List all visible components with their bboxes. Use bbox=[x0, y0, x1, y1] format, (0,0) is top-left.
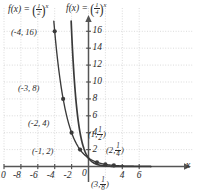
graph-figure: f(x) = (12)x f(x) = (14)x (-4, 16) (-3, … bbox=[0, 0, 197, 192]
point-label-neg4-16: (-4, 16) bbox=[11, 28, 37, 37]
point-label-2-quarter: (2,14) bbox=[106, 143, 124, 159]
y-tick-10: 10 bbox=[93, 77, 103, 87]
data-point bbox=[78, 148, 82, 152]
x-axis-label: x bbox=[186, 161, 190, 171]
paren-close: ) bbox=[100, 2, 104, 17]
curve-1 bbox=[54, 21, 151, 166]
y-tick-6: 6 bbox=[93, 111, 98, 121]
x-tick-neg8: -8 bbox=[13, 171, 21, 181]
curve-1-fx: f(x) bbox=[8, 4, 21, 14]
data-point bbox=[112, 163, 116, 167]
y-tick-8: 8 bbox=[93, 94, 98, 104]
y-tick-4: 4 bbox=[93, 128, 98, 138]
curve-2-equals: = bbox=[82, 3, 88, 13]
data-point bbox=[103, 162, 107, 166]
point-label-neg3-8: (-3, 8) bbox=[18, 84, 39, 93]
data-point bbox=[95, 160, 99, 164]
point-label-neg2-4: (-2, 4) bbox=[28, 119, 49, 128]
y-tick-2: 2 bbox=[93, 145, 98, 155]
y-tick-12: 12 bbox=[93, 60, 103, 70]
curves bbox=[54, 21, 151, 166]
x-tick-neg6: -6 bbox=[30, 171, 38, 181]
curve-1-equation-label: f(x) = (12)x bbox=[8, 3, 49, 17]
data-point bbox=[53, 29, 57, 33]
point-1-fraction: 12 bbox=[97, 127, 103, 143]
y-tick-14: 14 bbox=[93, 43, 103, 53]
x-tick-4: 4 bbox=[120, 171, 125, 181]
curve-1-exponent: x bbox=[46, 2, 49, 9]
x-tick-neg4: -4 bbox=[47, 171, 55, 181]
data-point bbox=[61, 97, 65, 101]
curve-2-exponent: x bbox=[104, 1, 107, 8]
point-label-neg1-2: (-1, 2) bbox=[32, 147, 53, 156]
curve-2-fx: f(x) bbox=[66, 3, 79, 13]
x-tick-neg10: -10 bbox=[0, 171, 6, 181]
y-tick-16: 16 bbox=[93, 26, 103, 36]
point-2-fraction: 14 bbox=[115, 143, 121, 159]
x-tick-neg2: -2 bbox=[64, 171, 72, 181]
curve-2-equation-label: f(x) = (14)x bbox=[66, 2, 107, 16]
paren-close: ) bbox=[42, 3, 46, 18]
x-tick-6: 6 bbox=[137, 171, 142, 181]
point-3-fraction: 18 bbox=[100, 177, 106, 192]
x-tick-0: 0 bbox=[82, 169, 87, 179]
point-label-3-eighth: (3,18) bbox=[91, 177, 109, 192]
data-point bbox=[70, 131, 74, 135]
curve-1-equals: = bbox=[24, 4, 30, 14]
